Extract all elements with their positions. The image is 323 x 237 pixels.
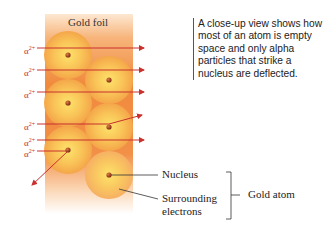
gold-atom-label: Gold atom bbox=[248, 188, 295, 201]
alpha-label: α2+ bbox=[24, 43, 35, 56]
nucleus-label: Nucleus bbox=[162, 168, 198, 181]
caption-text: A close-up view shows how most of an ato… bbox=[193, 18, 323, 80]
electrons-label-line2: electrons bbox=[162, 205, 202, 218]
alpha-label: α2+ bbox=[24, 119, 35, 132]
electrons-label-line1: Surrounding bbox=[162, 192, 217, 205]
alpha-label: α2+ bbox=[24, 146, 35, 159]
gold-foil-label: Gold foil bbox=[68, 16, 108, 28]
alpha-label: α2+ bbox=[24, 87, 35, 100]
alpha-label: α2+ bbox=[24, 65, 35, 78]
